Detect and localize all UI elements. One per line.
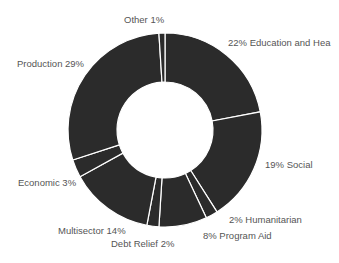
donut-slices bbox=[68, 33, 262, 227]
label-economic: Economic 3% bbox=[18, 178, 76, 188]
label-humanitarian: 2% Humanitarian bbox=[229, 215, 302, 225]
label-other: Other 1% bbox=[124, 15, 164, 25]
label-program-aid: 8% Program Aid bbox=[203, 231, 272, 241]
label-multisector: Multisector 14% bbox=[58, 226, 126, 236]
label-production: Production 29% bbox=[17, 59, 84, 69]
label-social: 19% Social bbox=[265, 160, 313, 170]
label-education: 22% Education and Hea bbox=[228, 38, 330, 48]
slice-production bbox=[68, 33, 162, 160]
label-debt-relief: Debt Relief 2% bbox=[111, 239, 174, 249]
